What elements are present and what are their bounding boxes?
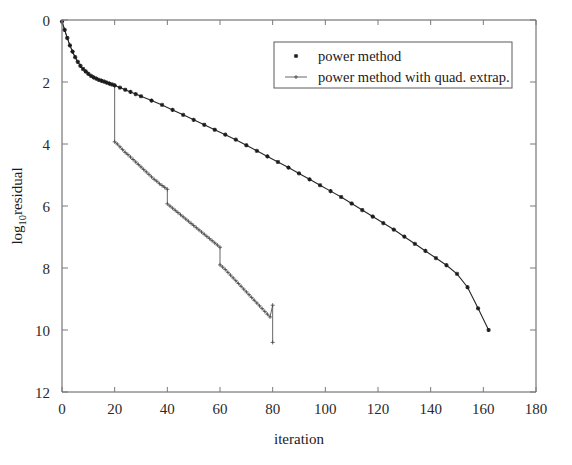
- y-tick-label-10: 10: [35, 323, 50, 339]
- x-tick-label-0: 0: [58, 401, 66, 417]
- y-tick-label-8: 8: [43, 261, 51, 277]
- chart-plot-area: 020406080100120140160180024681012iterati…: [0, 0, 572, 465]
- x-tick-label-180: 180: [525, 401, 548, 417]
- legend-label: power method: [318, 48, 402, 64]
- y-tick-label-0: 0: [43, 13, 51, 29]
- x-tick-label-20: 20: [107, 401, 122, 417]
- x-axis-title: iteration: [274, 431, 324, 447]
- chart-figure: 020406080100120140160180024681012iterati…: [0, 0, 572, 465]
- x-tick-label-80: 80: [265, 401, 280, 417]
- legend-entry-power-method-quad-extrap[interactable]: power method with quad. extrap.: [285, 69, 510, 85]
- x-tick-label-60: 60: [213, 401, 228, 417]
- legend-label: power method with quad. extrap.: [318, 69, 510, 85]
- y-tick-label-2: 2: [43, 75, 51, 91]
- x-tick-label-120: 120: [367, 401, 390, 417]
- x-tick-label-160: 160: [472, 401, 495, 417]
- x-tick-label-40: 40: [160, 401, 175, 417]
- series-path: [62, 22, 273, 343]
- svg-text:log10residual: log10residual: [9, 167, 28, 244]
- x-tick-label-100: 100: [314, 401, 337, 417]
- chart-legend: power methodpower method with quad. extr…: [274, 42, 512, 88]
- series-power-method-quad-extrap: [60, 20, 275, 345]
- x-tick-label-140: 140: [419, 401, 442, 417]
- y-axis-title: log10residual: [9, 167, 28, 244]
- y-tick-label-4: 4: [43, 137, 51, 153]
- y-tick-label-6: 6: [43, 199, 51, 215]
- y-tick-label-12: 12: [35, 385, 50, 401]
